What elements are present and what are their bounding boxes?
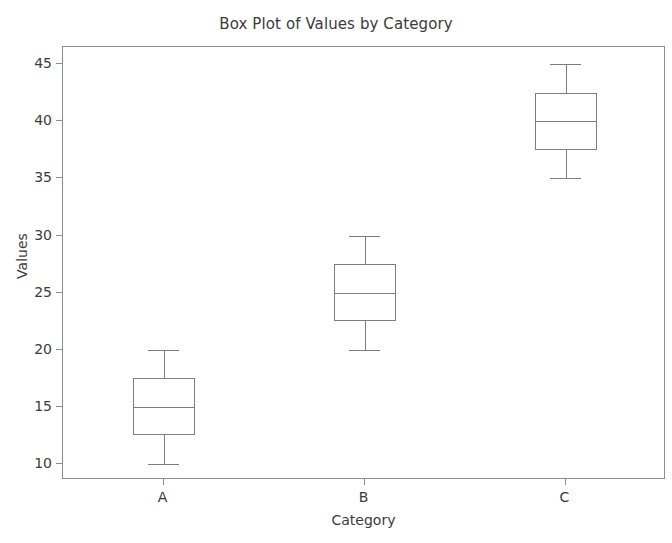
- box-plot-figure: Box Plot of Values by Category Values Ca…: [0, 0, 672, 543]
- x-axis-tick-label: B: [334, 489, 394, 505]
- y-axis-tick-label: 20: [12, 341, 52, 357]
- y-axis-tick-label: 10: [12, 455, 52, 471]
- median-line: [535, 121, 597, 122]
- y-axis-tick-label: 45: [12, 55, 52, 71]
- y-axis-tick-label: 15: [12, 398, 52, 414]
- box-plot-c: [63, 47, 666, 480]
- x-axis-tick-label: A: [133, 489, 193, 505]
- plot-area: [62, 46, 665, 479]
- y-axis-tick-label: 35: [12, 169, 52, 185]
- y-axis-tick-label: 25: [12, 284, 52, 300]
- whisker-lower: [566, 150, 567, 179]
- y-axis-tick-label: 30: [12, 227, 52, 243]
- whisker-cap-upper: [550, 64, 581, 65]
- x-axis-label: Category: [62, 512, 665, 528]
- y-axis-tick-label: 40: [12, 112, 52, 128]
- chart-title: Box Plot of Values by Category: [0, 15, 672, 33]
- x-axis-tick-label: C: [535, 489, 595, 505]
- whisker-upper: [566, 64, 567, 93]
- whisker-cap-lower: [550, 178, 581, 179]
